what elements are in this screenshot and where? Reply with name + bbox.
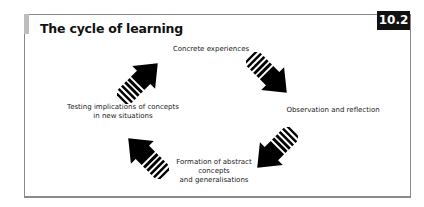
stage-formation-line-3: and generalisations — [176, 176, 251, 185]
stage-testing-line-2: in new situations — [67, 112, 179, 121]
arrow-north-west-icon — [117, 127, 169, 179]
arrow-south-west-icon — [246, 127, 298, 179]
title-accent-bar — [24, 14, 29, 34]
arrow-north-east-icon — [117, 52, 169, 104]
stage-formation-line-1: Formation of abstract — [176, 158, 251, 167]
figure-title: The cycle of learning — [40, 21, 183, 36]
stage-testing-implications: Testing implications of concepts in new … — [67, 103, 179, 121]
arrow-south-east-icon — [246, 52, 298, 104]
figure-number-badge: 10.2 — [377, 11, 410, 30]
stage-formation-abstract-concepts: Formation of abstract concepts and gener… — [176, 158, 251, 185]
stage-formation-line-2: concepts — [176, 167, 251, 176]
stage-testing-line-1: Testing implications of concepts — [67, 103, 179, 112]
stage-observation-reflection: Observation and reflection — [286, 106, 379, 115]
stage-concrete-experiences: Concrete experiences — [173, 45, 249, 54]
